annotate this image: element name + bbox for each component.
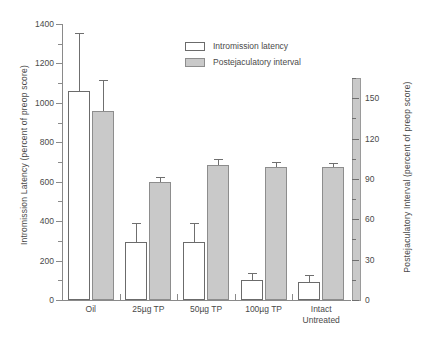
bar-intromission-latency: [68, 91, 90, 300]
error-bar-cap: [329, 163, 338, 164]
x-tick-label: 100µg TP: [245, 304, 282, 315]
x-tick-major: [292, 294, 293, 300]
right-tick-minor: [352, 239, 356, 240]
error-bar-cap: [305, 275, 314, 276]
chart-legend: Intromission latency Postejaculatory int…: [185, 41, 301, 73]
x-tick-label: Oil: [86, 304, 96, 315]
x-axis-line: [62, 300, 351, 301]
y-tick-minor: [58, 123, 62, 124]
bar-postejaculatory-interval: [322, 167, 344, 300]
y-axis-label-left: Intromission Latency (percent of preop s…: [19, 35, 29, 275]
right-tick-minor: [352, 159, 356, 160]
error-bar-cap: [132, 223, 141, 224]
x-tick-major: [120, 294, 121, 300]
bar-intromission-latency: [125, 242, 147, 300]
y-tick-minor: [58, 83, 62, 84]
y-tick-label: 400: [24, 216, 54, 226]
chart-figure: Intromission Latency (percent of preop s…: [0, 0, 421, 339]
error-bar-cap: [214, 159, 223, 160]
error-bar: [309, 275, 310, 282]
error-bar-cap: [248, 273, 257, 274]
error-bar-cap: [190, 223, 199, 224]
bar-intromission-latency: [298, 282, 320, 300]
bar-postejaculatory-interval: [207, 165, 229, 300]
right-tick-label: 30: [365, 255, 374, 265]
y-tick-major: [56, 182, 62, 183]
bar-postejaculatory-interval: [149, 182, 171, 300]
x-tick-major: [177, 294, 178, 300]
y-tick-major: [56, 103, 62, 104]
y-tick-label: 1200: [24, 58, 54, 68]
error-bar: [79, 33, 80, 91]
right-tick-label: 60: [365, 214, 374, 224]
legend-swatch-open: [185, 42, 205, 51]
y-tick-label: 600: [24, 177, 54, 187]
right-tick-major: [352, 219, 359, 220]
right-axis-scalebar: [352, 78, 361, 301]
right-tick-minor: [352, 280, 356, 281]
error-bar: [103, 80, 104, 111]
bar-postejaculatory-interval: [92, 111, 114, 300]
right-tick-major: [352, 139, 359, 140]
bar-postejaculatory-interval: [265, 167, 287, 300]
error-bar-cap: [99, 80, 108, 81]
right-tick-minor: [352, 199, 356, 200]
y-tick-minor: [58, 44, 62, 45]
right-tick-minor: [352, 118, 356, 119]
right-tick-major: [352, 260, 359, 261]
right-tick-major: [352, 179, 359, 180]
y-tick-label: 200: [24, 256, 54, 266]
error-bar: [136, 223, 137, 242]
y-tick-major: [56, 221, 62, 222]
y-axis-label-right: Postejaculatory Interval (percent of pre…: [402, 57, 412, 297]
bar-intromission-latency: [183, 242, 205, 300]
right-tick-major: [352, 300, 359, 301]
y-tick-major: [56, 261, 62, 262]
y-tick-major: [56, 24, 62, 25]
legend-label-intromission-latency: Intromission latency: [213, 41, 288, 51]
error-bar: [194, 223, 195, 242]
y-tick-major: [56, 300, 62, 301]
legend-label-postejaculatory-interval: Postejaculatory interval: [213, 57, 301, 67]
right-tick-minor: [352, 78, 356, 79]
y-tick-label: 0: [24, 295, 54, 305]
y-tick-label: 1400: [24, 19, 54, 29]
x-tick-label: 25µg TP: [132, 304, 164, 315]
y-tick-minor: [58, 280, 62, 281]
error-bar-cap: [156, 177, 165, 178]
x-tick-label: 50µg TP: [190, 304, 222, 315]
error-bar: [252, 273, 253, 280]
right-tick-label: 0: [365, 295, 370, 305]
x-tick-major: [235, 294, 236, 300]
right-tick-label: 120: [365, 134, 379, 144]
y-tick-label: 800: [24, 137, 54, 147]
y-tick-minor: [58, 201, 62, 202]
y-tick-major: [56, 63, 62, 64]
legend-swatch-filled: [185, 58, 205, 67]
legend-item-postejaculatory-interval: Postejaculatory interval: [185, 57, 301, 67]
right-tick-major: [352, 98, 359, 99]
right-tick-label: 150: [365, 93, 379, 103]
right-tick-label: 90: [365, 174, 374, 184]
y-tick-minor: [58, 162, 62, 163]
error-bar-cap: [75, 33, 84, 34]
legend-item-intromission-latency: Intromission latency: [185, 41, 301, 51]
y-tick-minor: [58, 241, 62, 242]
x-tick-label: Intact Untreated: [303, 304, 340, 326]
error-bar-cap: [272, 162, 281, 163]
y-tick-major: [56, 142, 62, 143]
bar-intromission-latency: [241, 280, 263, 300]
y-tick-label: 1000: [24, 98, 54, 108]
